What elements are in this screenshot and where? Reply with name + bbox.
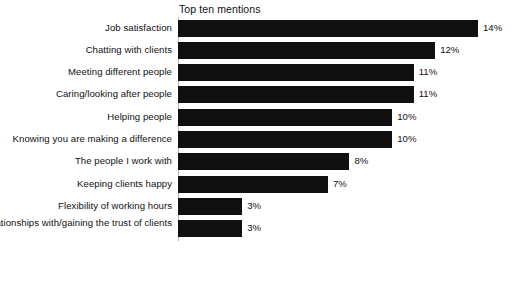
category-label: Caring/looking after people [0,88,172,99]
bar-value-label: 12% [440,44,459,55]
bar-chart-plot-area: Job satisfaction14%Chatting with clients… [0,17,523,243]
bar [178,86,414,103]
bar-value-label: 11% [419,66,438,77]
bar-value-label: 3% [247,222,261,233]
bar-value-label: 7% [333,178,347,189]
bar-value-label: 11% [419,88,438,99]
chart-row: Building relationships with/gaining the … [0,218,523,240]
chart-footer: tns ™ Source: Q68 Base: All care workers… [0,248,523,299]
bar [178,131,392,148]
bar-value-label: 8% [354,155,368,166]
category-label: Building relationships with/gaining the … [0,217,172,228]
chart-row: Keeping clients happy7% [0,173,523,195]
category-label: Meeting different people [0,66,172,77]
chart-row: Helping people10% [0,106,523,128]
chart-row: Flexibility of working hours3% [0,195,523,217]
bar [178,176,328,193]
bar [178,198,242,215]
chart-row: The people I work with8% [0,151,523,173]
chart-page: Top ten mentions Job satisfaction14%Chat… [0,0,523,299]
category-label: The people I work with [0,155,172,166]
bar-value-label: 10% [397,111,416,122]
category-label: Job satisfaction [0,22,172,33]
chart-row: Chatting with clients12% [0,39,523,61]
chart-row: Job satisfaction14% [0,17,523,39]
bar [178,109,392,126]
bar [178,42,435,59]
bar [178,153,349,170]
bar-value-label: 3% [247,200,261,211]
bar [178,64,414,81]
bar [178,20,478,37]
chart-row: Meeting different people11% [0,62,523,84]
bar-value-label: 10% [397,133,416,144]
chart-row: Caring/looking after people11% [0,84,523,106]
category-label: Chatting with clients [0,44,172,55]
category-label: Helping people [0,111,172,122]
category-label: Flexibility of working hours [0,200,172,211]
chart-title: Top ten mentions [179,3,261,15]
bar-value-label: 14% [483,22,502,33]
category-label: Keeping clients happy [0,178,172,189]
chart-row: Knowing you are making a difference10% [0,129,523,151]
bar [178,220,242,237]
category-label: Knowing you are making a difference [0,133,172,144]
